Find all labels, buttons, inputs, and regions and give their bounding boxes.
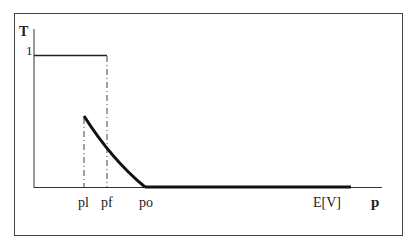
x-tick-ev: E[V] xyxy=(313,195,341,210)
chart-frame xyxy=(15,14,403,236)
chart: T 1 pl pf po E[V] p xyxy=(0,0,416,244)
y-axis-label: T xyxy=(19,24,29,39)
x-tick-po: po xyxy=(139,195,153,210)
x-tick-pl: pl xyxy=(78,195,89,210)
x-axis-label: p xyxy=(371,194,379,210)
decreasing-curve xyxy=(84,116,145,187)
y-tick-one: 1 xyxy=(26,43,33,58)
x-tick-pf: pf xyxy=(101,195,113,210)
